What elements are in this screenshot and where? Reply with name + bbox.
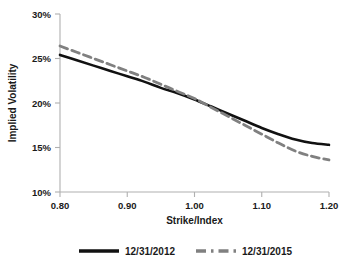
x-tick-label-080: 0.80 xyxy=(51,200,70,211)
chart-canvas: 30% 25% 20% 15% 10% 0.80 0.90 1.00 1.10 … xyxy=(0,0,353,266)
x-tick-label-110: 1.10 xyxy=(253,200,272,211)
y-tick-labels: 30% 25% 20% 15% 10% xyxy=(32,9,52,198)
y-tick-label-20: 20% xyxy=(32,98,52,109)
y-tick-label-30: 30% xyxy=(32,9,52,20)
y-tick-label-10: 10% xyxy=(32,187,52,198)
x-tick-label-120: 1.20 xyxy=(320,200,339,211)
x-tick-marks xyxy=(60,192,329,197)
series-line-2 xyxy=(60,46,329,160)
x-tick-labels: 0.80 0.90 1.00 1.10 1.20 xyxy=(51,200,339,211)
chart-legend: 12/31/2012 12/31/2015 xyxy=(79,246,292,257)
x-tick-label-090: 0.90 xyxy=(118,200,137,211)
legend-label-series-1: 12/31/2012 xyxy=(125,246,175,257)
x-tick-label-100: 1.00 xyxy=(185,200,204,211)
axis-group xyxy=(60,14,329,192)
implied-volatility-skew-chart: 30% 25% 20% 15% 10% 0.80 0.90 1.00 1.10 … xyxy=(0,0,353,266)
series-layer xyxy=(60,46,329,160)
legend-label-series-2: 12/31/2015 xyxy=(242,246,292,257)
y-tick-label-25: 25% xyxy=(32,53,52,64)
y-tick-label-15: 15% xyxy=(32,142,52,153)
x-axis-title: Strike/Index xyxy=(166,215,223,226)
y-axis-title: Implied Volatility xyxy=(7,63,18,142)
y-tick-marks xyxy=(55,14,60,192)
